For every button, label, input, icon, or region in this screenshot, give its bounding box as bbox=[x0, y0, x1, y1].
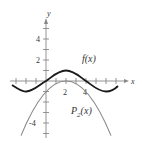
label-f: f(x) bbox=[82, 53, 97, 65]
graph: y x 2 4 4 2 -4 f(x) P2(x) bbox=[0, 0, 142, 143]
y-tick-label-neg4: -4 bbox=[29, 119, 36, 128]
y-axis-arrow-icon bbox=[44, 18, 48, 24]
x-axis-arrow-icon bbox=[124, 79, 129, 83]
y-tick-label-4: 4 bbox=[36, 35, 40, 44]
label-p2: P2(x) bbox=[70, 105, 92, 119]
x-tick-label-2: 2 bbox=[63, 88, 67, 97]
y-tick-label-2: 2 bbox=[36, 56, 40, 65]
x-axis-label: x bbox=[130, 77, 135, 86]
y-axis-label: y bbox=[46, 9, 51, 18]
